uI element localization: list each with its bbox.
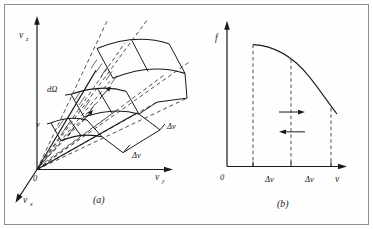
tick-label-delta-v-2: Δv xyxy=(304,174,314,184)
figure-root: v z v y v x 0 dΩ v Δv Δv (a) xyxy=(0,0,373,229)
vy-axis xyxy=(37,167,173,173)
vy-axis-label: v xyxy=(155,172,160,182)
panel-b-caption: (b) xyxy=(277,198,289,210)
lower-arrow xyxy=(279,129,305,134)
v-axis xyxy=(227,164,347,170)
delta-v-label-2: Δv xyxy=(166,121,176,131)
panel-b-drawing: f 0 Δv Δv v (b) xyxy=(201,5,370,224)
f-axis-arrowhead xyxy=(224,21,230,30)
panel-b-distribution-plot: f 0 Δv Δv v (b) xyxy=(201,5,370,224)
delta-v-brackets xyxy=(124,124,165,152)
origin-label-b: 0 xyxy=(220,172,225,182)
vx-axis-subscript: x xyxy=(29,201,33,207)
vx-axis-label: v xyxy=(23,195,28,205)
vy-axis-subscript: y xyxy=(161,178,165,184)
v-axis-label: v xyxy=(335,174,340,184)
v-axis-arrowhead xyxy=(338,164,347,170)
vz-axis-label: v xyxy=(19,30,24,40)
f-axis xyxy=(224,21,230,167)
vy-arrowhead xyxy=(164,167,173,173)
vx-arrowhead xyxy=(16,193,23,202)
vz-arrowhead xyxy=(34,16,40,25)
panel-a-velocity-space: v z v y v x 0 dΩ v Δv Δv (a) xyxy=(5,5,201,224)
panel-a-drawing: v z v y v x 0 dΩ v Δv Δv (a) xyxy=(5,5,201,224)
speed-label-v: v xyxy=(36,119,40,129)
vz-axis xyxy=(34,16,40,170)
v-axis-ticks xyxy=(253,162,331,167)
upper-arrow xyxy=(279,110,305,115)
vz-axis-subscript: z xyxy=(25,36,29,42)
delta-v-label-1: Δv xyxy=(131,150,141,160)
distribution-curve xyxy=(253,45,337,114)
delta-v-slab-faces xyxy=(102,73,187,152)
figure-border: v z v y v x 0 dΩ v Δv Δv (a) xyxy=(4,4,369,225)
tick-label-delta-v-1: Δv xyxy=(264,174,274,184)
shell-3 xyxy=(97,39,185,78)
dashed-verticals xyxy=(253,45,331,167)
wedge-hatching xyxy=(58,60,117,136)
origin-label-a: 0 xyxy=(33,173,38,183)
f-axis-label: f xyxy=(215,33,219,43)
cone-rays xyxy=(37,19,190,170)
panel-a-caption: (a) xyxy=(93,194,105,206)
solid-angle-label: dΩ xyxy=(47,84,57,94)
